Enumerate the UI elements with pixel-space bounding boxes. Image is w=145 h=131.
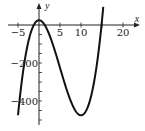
- x-tick-label: 20: [117, 27, 130, 38]
- x-axis-label: x: [134, 13, 140, 24]
- y-axis-label: y: [44, 0, 50, 11]
- y-axis-arrow-icon: [37, 3, 42, 9]
- x-tick-label: 10: [75, 27, 88, 38]
- x-tick-label: 5: [57, 27, 63, 38]
- tick-labels: −551020−200−400xy: [11, 0, 140, 107]
- cubic-function-chart: −551020−200−400xy: [0, 0, 145, 131]
- x-tick-label: −5: [11, 27, 26, 38]
- y-tick-label: −400: [11, 96, 38, 107]
